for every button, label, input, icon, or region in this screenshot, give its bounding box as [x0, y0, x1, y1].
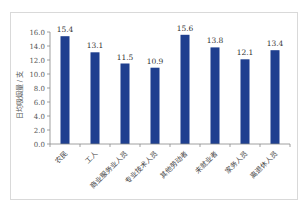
y-axis: 0.02.04.06.08.010.012.014.016.0 — [29, 29, 50, 149]
x-category-label: 工人 — [84, 150, 100, 166]
x-category-label: 其他劳动者 — [158, 149, 189, 180]
bar — [61, 36, 70, 144]
y-tick-label: 8.0 — [34, 85, 45, 93]
x-axis: 农民工人商业服务业人员专业技术人员其他劳动者未就业者家务人员离退休人员 — [50, 144, 290, 190]
y-tick-label: 2.0 — [34, 127, 45, 135]
x-category-label: 未就业者 — [193, 149, 219, 175]
bar-value-label: 11.5 — [117, 53, 134, 62]
y-tick-label: 4.0 — [34, 113, 45, 121]
bar — [181, 35, 190, 144]
bar — [241, 59, 250, 144]
bar — [121, 64, 130, 145]
bar-value-label: 13.8 — [207, 36, 224, 45]
bar-value-label: 10.9 — [147, 57, 164, 66]
x-category-label: 家务人员 — [223, 149, 249, 175]
y-axis-label: 日均吸烟量 / 支 — [15, 71, 24, 120]
bar-value-label: 13.1 — [87, 41, 104, 50]
x-category-label: 专业技术人员 — [123, 149, 159, 185]
bar-value-label: 13.4 — [267, 39, 284, 48]
y-tick-label: 6.0 — [34, 99, 45, 107]
bar — [211, 47, 220, 144]
x-category-label: 离退休人员 — [248, 149, 279, 180]
y-tick-label: 10.0 — [29, 71, 45, 79]
y-tick-label: 16.0 — [29, 29, 45, 37]
bar-chart: 0.02.04.06.08.010.012.014.016.0 15.413.1… — [0, 0, 307, 212]
y-tick-label: 12.0 — [29, 57, 45, 65]
bar — [151, 68, 160, 144]
y-tick-label: 0.0 — [34, 141, 45, 149]
bar — [91, 52, 100, 144]
bar-value-label: 12.1 — [237, 48, 254, 57]
bar-value-label: 15.6 — [177, 24, 194, 33]
x-category-label: 农民 — [53, 149, 69, 165]
bar-value-label: 15.4 — [57, 25, 74, 34]
bar — [271, 50, 280, 144]
bars: 15.413.111.510.915.613.812.113.4 — [57, 24, 284, 144]
y-tick-label: 14.0 — [29, 43, 45, 51]
